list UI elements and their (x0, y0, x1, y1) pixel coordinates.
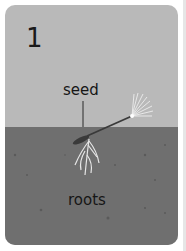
diagram-card: 1 seed roots (5, 5, 178, 245)
roots-drawing (75, 139, 99, 175)
seed-illustration (5, 5, 178, 245)
adjacent-card-edge (183, 0, 186, 251)
pappus-icon (132, 93, 153, 116)
soil-texture (14, 144, 166, 220)
seed-stalk (87, 116, 132, 136)
